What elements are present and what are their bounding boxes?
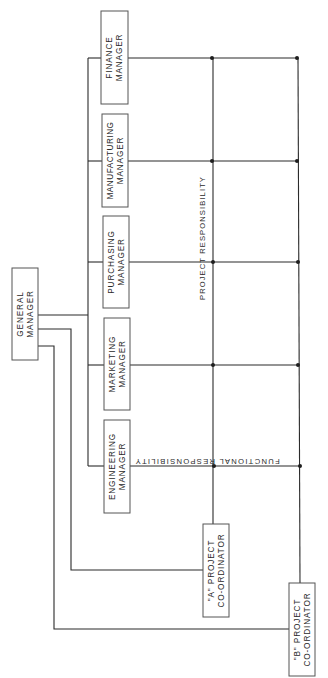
a-project-coordinator-label-line2: CO-ORDINATOR [217,533,226,607]
matrix-org-chart: GENERAL MANAGER FINANCE MANAGER MANUFACT… [0,0,328,678]
axis-labels: PROJECT RESPONSIBILITY FUNCTIONAL RESPON… [134,176,279,466]
junction-dot [210,56,214,60]
general-manager-label-line1: GENERAL [16,291,25,336]
marketing-manager-label-line2: MANAGER [118,340,127,388]
engineering-manager-label-line2: MANAGER [118,443,127,491]
project-responsibility-label: PROJECT RESPONSIBILITY [198,176,207,300]
box-labels: GENERAL MANAGER FINANCE MANAGER MANUFACT… [16,34,312,667]
marketing-manager-label-line1: MARKETING [108,336,117,393]
purchasing-manager-label-line2: MANAGER [117,238,126,286]
manufacturing-manager-label-line1: MANUFACTURING [106,122,115,200]
junction-dot [211,363,215,367]
junction-dot [211,260,215,264]
manufacturing-manager-label-line2: MANAGER [116,137,125,185]
finance-manager-label-line1: FINANCE [105,36,114,78]
general-manager-label-line2: MANAGER [26,290,35,338]
junction-dot [295,56,299,60]
connector-lines [38,58,300,629]
b-project-column-line [298,58,300,583]
functional-responsibility-label: FUNCTIONAL RESPONSIBILITY [134,457,279,466]
b-project-coordinator-label-line1: "B" PROJECT [293,599,302,661]
purchasing-manager-label-line1: PURCHASING [107,230,116,294]
a-project-coordinator-label-line1: "A" PROJECT [207,540,216,602]
junction-dot [296,260,300,264]
junction-dot [210,159,214,163]
engineering-manager-label-line1: ENGINEERING [108,433,117,500]
gm-to-b-coordinator-line [38,346,289,629]
boxes [12,11,315,676]
junction-dot [296,363,300,367]
finance-manager-label-line2: MANAGER [115,34,124,82]
b-project-coordinator-label-line2: CO-ORDINATOR [303,592,312,666]
junction-dot [295,159,299,163]
junction-dot [298,464,302,468]
